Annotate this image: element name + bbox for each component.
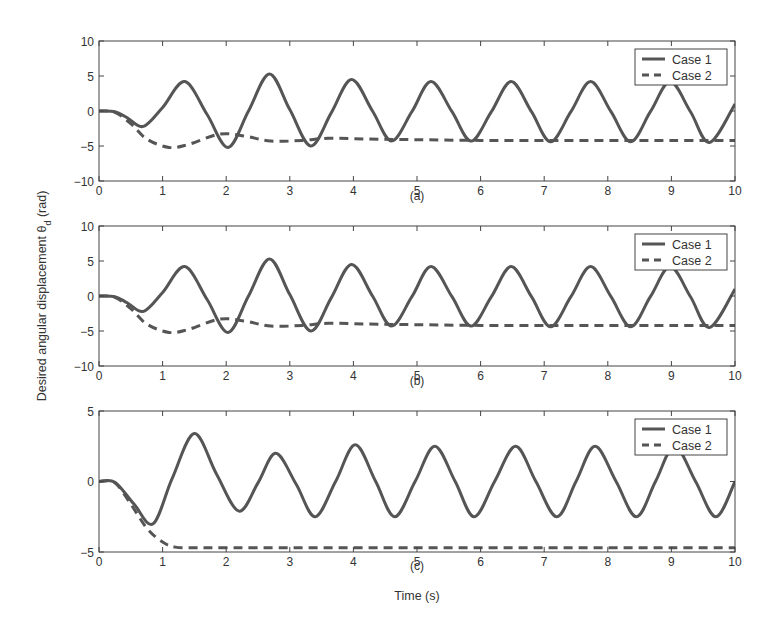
x-tick-label: 8: [604, 184, 611, 198]
x-tick-label: 0: [96, 555, 103, 569]
y-axis-label: Desired angular displacement θd (rad): [35, 191, 53, 402]
x-tick-label: 2: [223, 369, 230, 383]
panel-a: 012345678910−10−50510(a)Case 1Case 2: [74, 35, 742, 204]
x-tick-label: 3: [286, 555, 293, 569]
x-tick-label: 6: [477, 555, 484, 569]
panel-label: (c): [410, 559, 424, 573]
x-tick-label: 6: [477, 184, 484, 198]
y-tick-label: 0: [87, 475, 94, 489]
x-tick-label: 1: [159, 555, 166, 569]
x-axis-label: Time (s): [394, 589, 439, 603]
y-tick-label: 10: [81, 35, 95, 49]
x-tick-label: 9: [668, 555, 675, 569]
x-tick-label: 7: [541, 184, 548, 198]
y-tick-label: 5: [87, 255, 94, 269]
x-tick-label: 9: [668, 184, 675, 198]
y-tick-label: −5: [80, 325, 94, 339]
x-tick-label: 9: [668, 369, 675, 383]
y-tick-label: −10: [74, 360, 95, 374]
legend-label: Case 1: [672, 53, 712, 67]
legend-label: Case 1: [672, 238, 712, 252]
x-tick-label: 8: [604, 369, 611, 383]
x-tick-label: 1: [159, 184, 166, 198]
y-tick-label: −5: [80, 546, 94, 560]
x-tick-label: 4: [350, 184, 357, 198]
y-tick-label: 5: [87, 70, 94, 84]
y-tick-label: 10: [81, 220, 95, 234]
x-tick-label: 1: [159, 369, 166, 383]
legend-label: Case 2: [672, 439, 712, 453]
x-tick-label: 3: [286, 369, 293, 383]
x-tick-label: 7: [541, 369, 548, 383]
figure: 012345678910−10−50510(a)Case 1Case 20123…: [0, 0, 777, 637]
x-tick-label: 7: [541, 555, 548, 569]
panel-c: 012345678910−505(c)Case 1Case 2: [80, 405, 742, 574]
panel-b: 012345678910−10−50510(b)Case 1Case 2: [74, 220, 742, 389]
y-tick-label: −10: [74, 175, 95, 189]
x-tick-label: 8: [604, 555, 611, 569]
legend: Case 1Case 2: [635, 419, 727, 455]
legend: Case 1Case 2: [635, 49, 727, 85]
x-tick-label: 10: [728, 369, 742, 383]
x-tick-label: 2: [223, 184, 230, 198]
y-tick-label: −5: [80, 140, 94, 154]
y-tick-label: 0: [87, 105, 94, 119]
x-tick-label: 4: [350, 555, 357, 569]
legend-label: Case 1: [672, 423, 712, 437]
x-tick-label: 3: [286, 184, 293, 198]
panel-label: (a): [410, 189, 425, 203]
x-tick-label: 10: [728, 555, 742, 569]
y-tick-label: 5: [87, 405, 94, 419]
x-tick-label: 0: [96, 184, 103, 198]
legend: Case 1Case 2: [635, 234, 727, 270]
legend-label: Case 2: [672, 254, 712, 268]
x-tick-label: 6: [477, 369, 484, 383]
x-tick-label: 2: [223, 555, 230, 569]
panel-label: (b): [410, 374, 425, 388]
x-tick-label: 0: [96, 369, 103, 383]
legend-label: Case 2: [672, 69, 712, 83]
x-tick-label: 4: [350, 369, 357, 383]
y-tick-label: 0: [87, 290, 94, 304]
x-tick-label: 10: [728, 184, 742, 198]
